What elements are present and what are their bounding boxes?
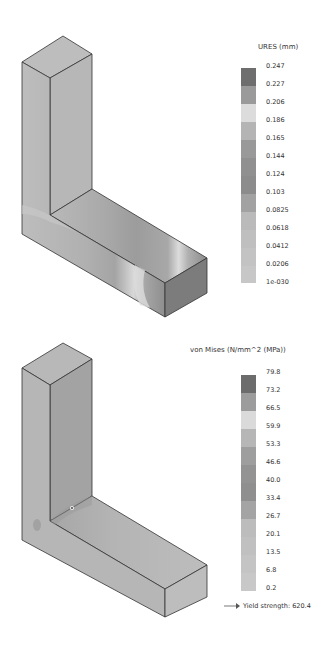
ures-label: 0.165 [266,134,285,142]
vm-seg-0 [241,375,256,393]
vm-seg-5 [241,465,256,483]
vonmises-label: 40.0 [266,476,280,484]
vm-seg-9 [241,537,256,555]
vm-seg-6 [241,483,256,501]
vm-seg-8 [241,519,256,537]
ures-seg-11 [241,266,256,283]
ures-seg-8 [241,212,256,230]
ures-seg-5 [241,158,256,176]
ures-seg-1 [241,86,256,104]
ures-seg-4 [241,140,256,158]
ures-label: 0.144 [266,152,285,160]
vonmises-label: 33.4 [266,494,280,502]
vonmises-label: 0.2 [266,584,276,592]
ures-label: 1e-030 [266,278,289,286]
ures-seg-3 [241,122,256,140]
ures-seg-2 [241,104,256,122]
vonmises-label: 73.2 [266,386,280,394]
vonmises-label: 59.9 [266,422,280,430]
vonmises-legend-title: von Mises (N/mm^2 (MPa)) [190,346,286,354]
ures-label: 0.186 [266,116,285,124]
vonmises-label: 20.1 [266,530,280,538]
ures-label: 0.206 [266,98,285,106]
vm-seg-7 [241,501,256,519]
ures-label: 0.227 [266,80,285,88]
vm-seg-3 [241,429,256,447]
vonmises-label: 6.8 [266,566,276,574]
yield-strength-label: Yield strength: 620.4 [243,602,311,610]
ures-color-bar [241,68,256,283]
vonmises-label: 66.5 [266,404,280,412]
top-bracket [22,36,207,317]
ures-label: 0.124 [266,170,285,178]
ures-seg-6 [241,176,256,194]
ures-label: 0.103 [266,188,285,196]
vm-seg-1 [241,393,256,411]
ures-label: 0.0618 [266,224,289,232]
ures-label: 0.0412 [266,242,289,250]
ures-seg-7 [241,194,256,212]
ures-label: 0.247 [266,62,285,70]
ures-seg-9 [241,230,256,248]
vonmises-color-bar [241,375,256,591]
vm-seg-11 [241,573,256,591]
vm-seg-10 [241,555,256,573]
vm-seg-4 [241,447,256,465]
vonmises-label: 46.6 [266,458,280,466]
vonmises-label: 79.8 [266,368,280,376]
vm-seg-2 [241,411,256,429]
ures-seg-10 [241,248,256,266]
bottom-bracket [22,343,207,617]
ures-seg-0 [241,68,256,86]
ures-legend-title: URES (mm) [258,43,298,51]
yield-arrow-icon [224,603,240,609]
ures-label: 0.0825 [266,206,289,214]
ures-label: 0.0206 [266,260,289,268]
vonmises-label: 13.5 [266,548,280,556]
vonmises-label: 26.7 [266,512,280,520]
vonmises-label: 53.3 [266,440,280,448]
